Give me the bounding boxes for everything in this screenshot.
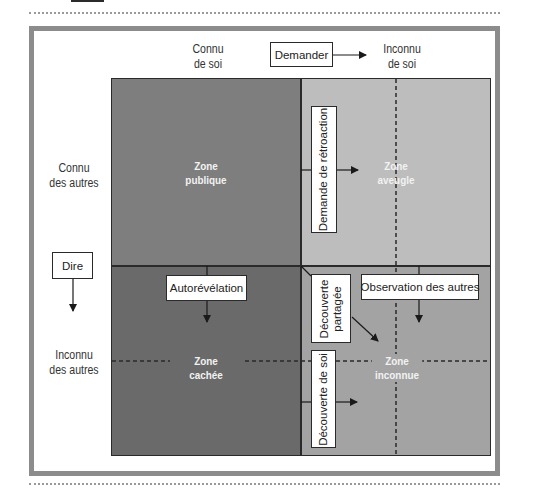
zone-unknown-label: Zone inconnue xyxy=(372,354,422,382)
column-label-line1: Connu xyxy=(180,42,236,57)
row-label-line1: Connu xyxy=(42,161,105,176)
zone-label-line2: publique xyxy=(170,173,242,187)
column-label-unknown-to-self: Inconnu de soi xyxy=(374,42,430,72)
zone-hidden-label: Zone cachée xyxy=(170,354,242,382)
column-label-line1: Inconnu xyxy=(374,42,430,57)
zone-label-line1: Zone xyxy=(360,159,432,173)
others-observation-label: Observation des autres xyxy=(361,281,480,293)
zone-label-line2: cachée xyxy=(170,368,242,382)
zone-label-line2: inconnue xyxy=(372,368,422,382)
feedback-request-label: Demande de rétroaction xyxy=(318,108,331,231)
row-label-line1: Inconnu xyxy=(42,348,105,363)
column-label-line2: de soi xyxy=(180,57,236,72)
ask-label: Demander xyxy=(275,49,329,61)
row-label-line2: des autres xyxy=(42,176,105,191)
zone-blind-label: Zone aveugle xyxy=(360,159,432,187)
shared-discovery-box: Découverte partagée xyxy=(311,274,351,343)
column-label-line2: de soi xyxy=(374,57,430,72)
self-disclosure-box: Autorévélation xyxy=(166,275,247,301)
self-discovery-label: Découverte de soi xyxy=(317,353,330,446)
others-observation-box: Observation des autres xyxy=(361,274,479,300)
ask-box: Demander xyxy=(270,42,333,67)
feedback-request-box: Demande de rétroaction xyxy=(311,106,337,233)
tell-box: Dire xyxy=(52,252,93,279)
zone-label-line1: Zone xyxy=(170,354,242,368)
row-label-unknown-to-others: Inconnu des autres xyxy=(42,348,105,378)
row-label-line2: des autres xyxy=(42,363,105,378)
zone-label-line1: Zone xyxy=(372,354,422,368)
tell-label: Dire xyxy=(62,260,83,272)
zone-label-line1: Zone xyxy=(170,159,242,173)
shared-discovery-line1: Découverte xyxy=(318,279,331,338)
self-discovery-box: Découverte de soi xyxy=(311,350,336,448)
self-disclosure-label: Autorévélation xyxy=(170,282,244,294)
shared-discovery-label: Découverte partagée xyxy=(318,279,344,338)
row-label-known-to-others: Connu des autres xyxy=(42,161,105,191)
zone-label-line2: aveugle xyxy=(360,173,432,187)
shared-discovery-line2: partagée xyxy=(331,279,344,338)
connector-overlay xyxy=(0,0,533,494)
zone-public-label: Zone publique xyxy=(170,159,242,187)
column-label-known-to-self: Connu de soi xyxy=(180,42,236,72)
